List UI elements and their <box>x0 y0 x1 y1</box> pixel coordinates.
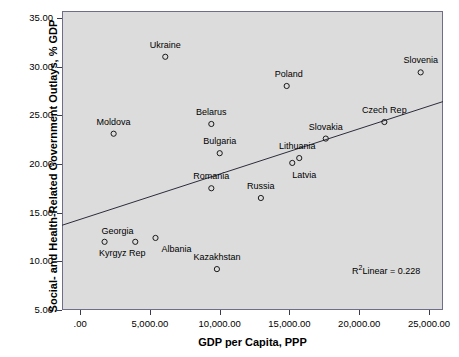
data-point-label: Kazakhstan <box>167 252 267 262</box>
data-point-marker[interactable] <box>209 121 214 126</box>
data-point-marker[interactable] <box>284 83 289 88</box>
data-point-marker[interactable] <box>153 235 158 240</box>
r2-suffix: Linear = 0.228 <box>362 266 420 276</box>
scatter-plot-figure: Social- and Health-Related Government Ou… <box>0 0 459 357</box>
data-point-marker[interactable] <box>163 54 168 59</box>
data-point-marker[interactable] <box>214 266 219 271</box>
data-point-label: Belarus <box>161 107 261 117</box>
data-point-label: Lithuania <box>247 141 347 151</box>
x-axis-title: GDP per Capita, PPP <box>62 336 443 348</box>
data-point-label: Slovakia <box>276 122 376 132</box>
data-point-label: Russia <box>211 181 311 191</box>
data-point-marker[interactable] <box>102 239 107 244</box>
data-point-marker[interactable] <box>418 70 423 75</box>
data-point-label: Georgia <box>68 226 168 236</box>
data-point-label: Romania <box>161 171 261 181</box>
data-point-label: Moldova <box>64 117 164 127</box>
data-point-label: Poland <box>239 69 339 79</box>
data-point-marker[interactable] <box>290 160 295 165</box>
data-point-markers <box>102 54 423 272</box>
r-squared-annotation: R2Linear = 0.228 <box>352 264 420 276</box>
data-point-label: Slovenia <box>371 55 459 65</box>
data-point-label: Kyrgyz Rep <box>72 248 172 258</box>
data-point-marker[interactable] <box>217 151 222 156</box>
data-point-marker[interactable] <box>258 195 263 200</box>
data-point-label: Latvia <box>254 170 354 180</box>
data-point-label: Ukraine <box>115 40 215 50</box>
data-point-label: Czech Rep <box>334 105 434 115</box>
data-point-marker[interactable] <box>111 131 116 136</box>
data-point-marker[interactable] <box>297 155 302 160</box>
